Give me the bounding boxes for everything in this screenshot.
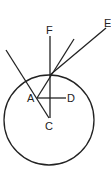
label-e: E — [104, 17, 111, 29]
label-f: F — [46, 24, 53, 36]
label-d: D — [67, 92, 75, 104]
label-a: A — [27, 92, 35, 104]
label-c: C — [45, 120, 53, 132]
geometry-diagram: F E A D C — [0, 0, 111, 176]
segment-slant-to-c — [6, 50, 49, 118]
segment-pe — [50, 28, 106, 75]
segment-a-through-p — [37, 39, 74, 98]
